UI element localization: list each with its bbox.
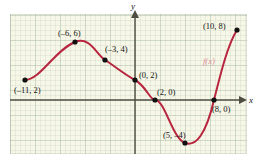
y-axis-label: y [131, 2, 135, 11]
point-label-8-0: (8, 0) [212, 105, 230, 114]
data-point-neg3-4 [102, 57, 107, 62]
point-label-neg6-6: (–6, 6) [58, 29, 81, 38]
data-point-5-neg4 [182, 140, 187, 145]
point-label-neg11-2: (–11, 2) [14, 86, 41, 95]
data-point-neg11-2 [22, 77, 27, 82]
function-name-label: f(x) [203, 57, 215, 66]
point-label-2-0: (2, 0) [157, 88, 175, 97]
function-curve [25, 30, 237, 144]
point-label-0-2: (0, 2) [139, 71, 157, 80]
data-point-2-0 [152, 97, 157, 102]
graph-figure: y x f(x) (–11, 2) (–6, 6) (–3, 4) (0, 2)… [0, 0, 262, 163]
x-axis-label: x [249, 96, 253, 105]
point-label-5-neg4: (5, –4) [163, 131, 186, 140]
point-label-10-8: (10, 8) [203, 22, 226, 31]
data-point-0-2 [132, 77, 137, 82]
data-point-10-8 [234, 27, 239, 32]
point-label-neg3-4: (–3, 4) [105, 45, 128, 54]
data-point-8-0 [211, 97, 216, 102]
data-point-neg6-6 [72, 39, 77, 44]
